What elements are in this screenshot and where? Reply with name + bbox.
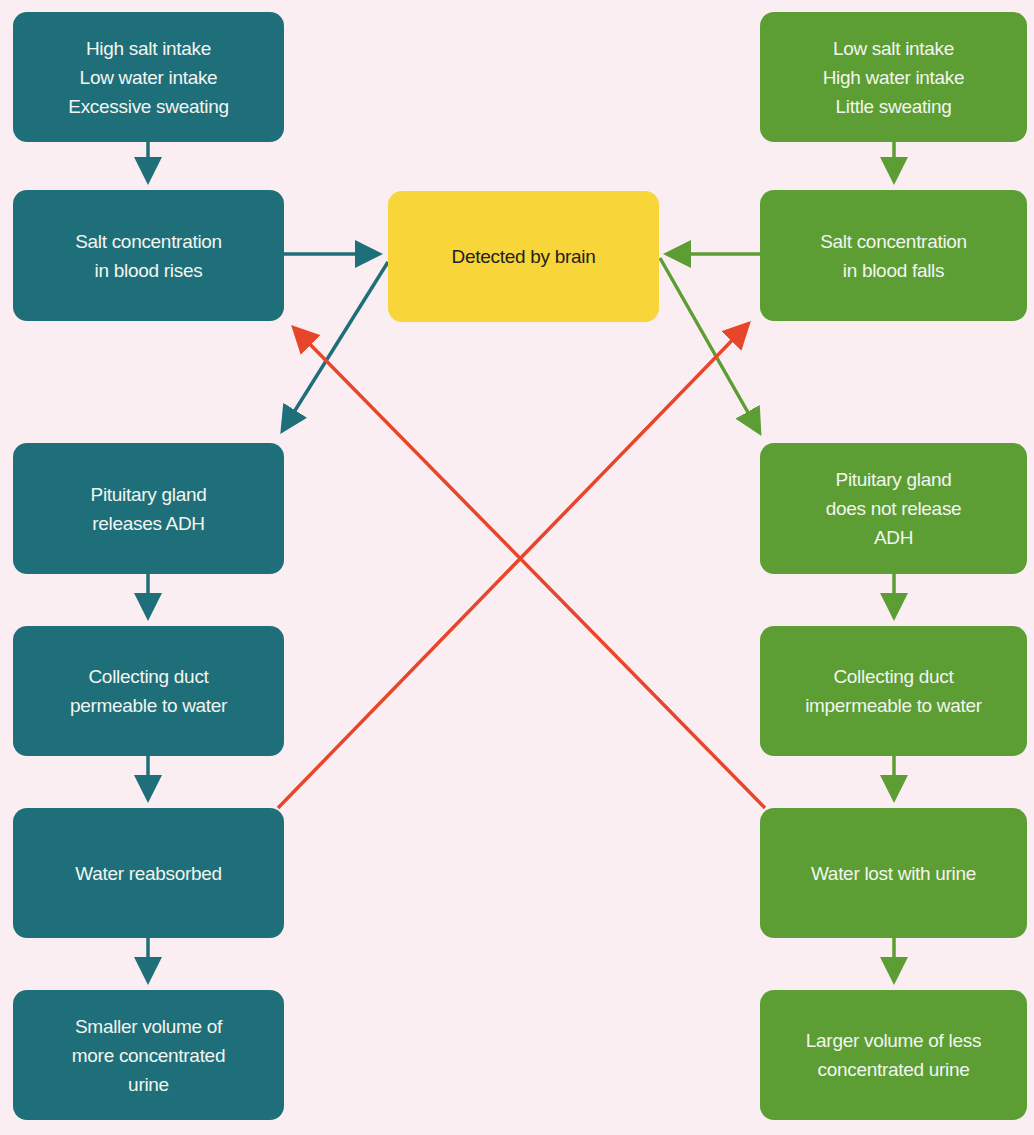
water-reabsorbed-box: Water reabsorbed: [13, 808, 284, 938]
feedback-arrows: [278, 326, 765, 808]
detected-by-brain-box: Detected by brain: [388, 191, 659, 322]
dilute-urine-box: Larger volume of less concentrated urine: [760, 990, 1027, 1120]
duct-permeable-box: Collecting duct permeable to water: [13, 626, 284, 756]
salt-falls-box: Salt concentration in blood falls: [760, 190, 1027, 321]
low-salt-conditions-box: Low salt intake High water intake Little…: [760, 12, 1027, 142]
pituitary-no-adh-box: Pituitary gland does not release ADH: [760, 443, 1027, 574]
salt-rises-box: Salt concentration in blood rises: [13, 190, 284, 321]
duct-impermeable-box: Collecting duct impermeable to water: [760, 626, 1027, 756]
concentrated-urine-box: Smaller volume of more concentrated urin…: [13, 990, 284, 1120]
high-salt-conditions-box: High salt intake Low water intake Excess…: [13, 12, 284, 142]
water-lost-box: Water lost with urine: [760, 808, 1027, 938]
pituitary-releases-adh-box: Pituitary gland releases ADH: [13, 443, 284, 574]
